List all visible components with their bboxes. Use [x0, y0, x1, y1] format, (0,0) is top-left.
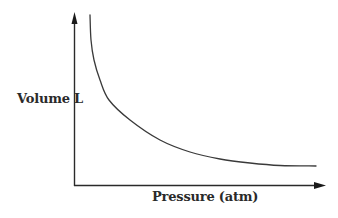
volume-pressure-curve: [90, 15, 316, 166]
y-axis-arrowhead-icon: [72, 12, 78, 24]
chart-canvas: [0, 0, 338, 218]
y-axis-label: Volume L: [17, 91, 83, 106]
x-axis-label: Pressure (atm): [152, 189, 258, 204]
x-axis-arrowhead-icon: [314, 182, 326, 189]
pressure-volume-chart: Volume L Pressure (atm): [0, 0, 338, 218]
